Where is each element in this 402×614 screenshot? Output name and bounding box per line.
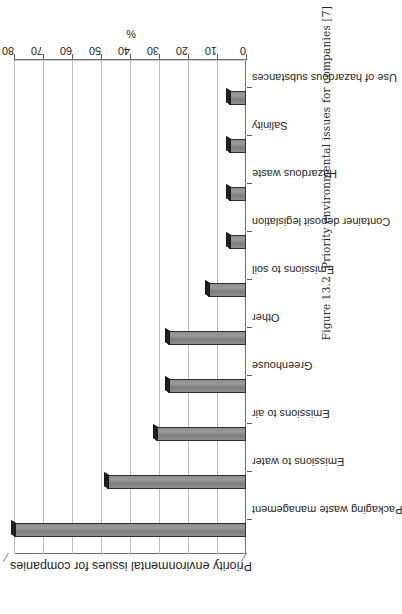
bar[interactable]: [168, 331, 246, 345]
figure-caption-number: Figure 13.2: [320, 276, 332, 340]
value-axis: % 01020304050607080: [14, 16, 246, 60]
bar[interactable]: [107, 475, 246, 489]
bar[interactable]: [156, 427, 246, 441]
bar-top-face: [11, 520, 16, 537]
value-axis-tick: [188, 54, 189, 60]
bar-slot: [14, 304, 246, 352]
value-axis-tick: [217, 54, 218, 60]
value-axis-tick: [14, 54, 15, 60]
category-tick: [247, 423, 252, 424]
figure-caption: Figure 13.2 Priority environmental issue…: [308, 0, 344, 614]
bar-slot: [14, 112, 246, 160]
value-axis-tick-label: 60: [60, 45, 72, 57]
value-axis-tick: [246, 54, 247, 60]
category-tick: [247, 519, 252, 520]
value-axis-tick-label: 50: [89, 45, 101, 57]
category-label: Greenhouse: [252, 360, 313, 372]
figure-caption-text: Priority environmental issues for compan…: [320, 6, 332, 269]
bar-slot: [14, 208, 246, 256]
bar[interactable]: [229, 91, 246, 105]
bar-top-face: [165, 328, 170, 345]
value-axis-tick: [101, 54, 102, 60]
bar-top-face: [226, 88, 231, 105]
category-tick: [247, 87, 252, 88]
category-tick: [247, 279, 252, 280]
bar[interactable]: [229, 235, 246, 249]
category-tick: [247, 375, 252, 376]
value-axis-tick: [43, 54, 44, 60]
bar-slot: [14, 352, 246, 400]
category-tick: [247, 183, 252, 184]
value-axis-tick-label: 40: [118, 45, 130, 57]
value-axis-tick-label: 0: [240, 45, 246, 57]
value-axis-tick: [159, 54, 160, 60]
plot-area: [14, 60, 246, 554]
bar-top-face: [226, 232, 231, 249]
category-label: Other: [252, 312, 280, 324]
bar-slot: [14, 64, 246, 112]
value-axis-tick-label: 70: [31, 45, 43, 57]
bar-top-face: [104, 472, 109, 489]
bar-top-face: [205, 280, 210, 297]
category-tick: [247, 327, 252, 328]
bar[interactable]: [229, 139, 246, 153]
bar-slot: [14, 400, 246, 448]
value-axis-tick: [72, 54, 73, 60]
value-axis-tick-label: 80: [2, 45, 14, 57]
bar-slot: [14, 448, 246, 496]
bar[interactable]: [229, 187, 246, 201]
value-axis-title: %: [126, 28, 136, 40]
value-axis-tick-label: 10: [205, 45, 217, 57]
category-tick: [247, 231, 252, 232]
value-axis-tick-label: 20: [176, 45, 188, 57]
bar[interactable]: [208, 283, 246, 297]
chart-title: Priority environmental issues for compan…: [0, 559, 281, 573]
value-axis-tick-label: 30: [147, 45, 159, 57]
bar-slot: [14, 160, 246, 208]
bar[interactable]: [14, 523, 246, 537]
bar-series: [14, 60, 246, 554]
bar-top-face: [153, 424, 158, 441]
bar-top-face: [226, 136, 231, 153]
value-axis-tick: [130, 54, 131, 60]
bar-slot: [14, 496, 246, 544]
category-tick: [247, 471, 252, 472]
bar-top-face: [165, 376, 170, 393]
category-tick: [247, 135, 252, 136]
bar-chart: Priority environmental issues for compan…: [6, 16, 306, 606]
bar-slot: [14, 256, 246, 304]
category-label: Salinity: [252, 120, 287, 132]
bar-top-face: [226, 184, 231, 201]
bar[interactable]: [168, 379, 246, 393]
